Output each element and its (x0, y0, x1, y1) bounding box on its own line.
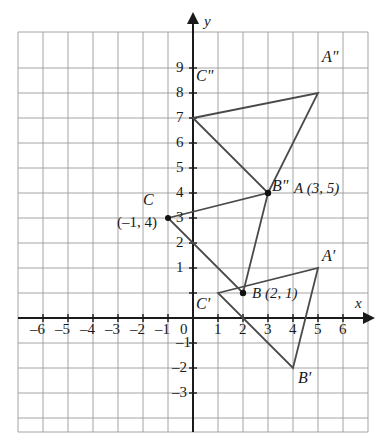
y-tick-8: 8 (176, 85, 184, 100)
x-tick-3: 3 (264, 322, 272, 337)
x-tick-5: 5 (314, 322, 322, 337)
y-tick-2: 2 (176, 235, 184, 250)
vertex-label-C: C (143, 192, 154, 208)
y-tick-6: 6 (176, 135, 184, 150)
x-tick-minus-6: –6 (30, 322, 45, 337)
y-tick-9: 9 (176, 60, 184, 75)
y-tick-1: 1 (176, 260, 184, 275)
marker-A-point (265, 190, 271, 196)
y-tick-minus-2: –2 (172, 360, 187, 375)
x-tick-6: 6 (339, 322, 347, 337)
coordinate-plane-figure: y x 9 8 7 6 5 4 3 2 1 –1 –2 –3 –6 –5 –4 … (0, 0, 388, 439)
y-tick-3: 3 (176, 210, 184, 225)
axis-x-label: x (355, 296, 362, 311)
y-tick-5: 5 (176, 160, 184, 175)
y-tick-minus-1: –1 (176, 335, 191, 350)
x-tick-minus-2: –2 (130, 322, 145, 337)
marker-C-point (165, 215, 171, 221)
vertex-label-B-with-coordinates: B (2, 1) (252, 286, 297, 301)
y-tick-minus-3: –3 (172, 385, 187, 400)
x-tick-zero: 0 (180, 322, 188, 337)
x-tick-1: 1 (214, 322, 222, 337)
graph-canvas (0, 0, 388, 439)
vertex-label-C-prime: C′ (196, 296, 210, 312)
x-tick-4: 4 (289, 322, 297, 337)
x-tick-minus-5: –5 (55, 322, 70, 337)
x-tick-minus-4: –4 (80, 322, 95, 337)
vertex-label-B-prime: B′ (298, 370, 311, 386)
vertex-label-A-with-coordinates: A (3, 5) (294, 181, 339, 196)
vertex-label-A-double-prime: A" (322, 49, 339, 65)
vertex-coordinates-C: (–1, 4) (117, 215, 157, 230)
x-tick-minus-3: –3 (105, 322, 120, 337)
y-tick-7: 7 (176, 110, 184, 125)
x-tick-2: 2 (239, 322, 247, 337)
vertex-label-C-double-prime: C" (196, 68, 213, 84)
vertex-label-B-double-prime: B" (272, 178, 289, 194)
axis-y-label: y (204, 14, 211, 29)
x-tick-minus-1: –1 (155, 322, 170, 337)
y-tick-4: 4 (176, 185, 184, 200)
marker-B-point (240, 290, 246, 296)
vertex-label-A-prime: A′ (322, 248, 335, 264)
